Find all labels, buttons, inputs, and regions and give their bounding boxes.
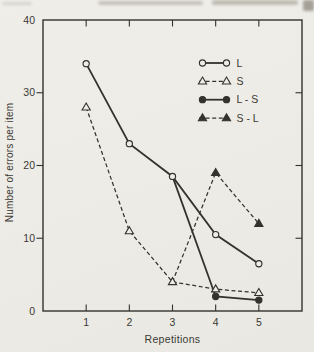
series-marker-filled-circle: [213, 293, 219, 299]
series-marker-open-triangle: [82, 103, 90, 110]
series-marker-open-circle: [223, 60, 229, 66]
series-markers-l: [83, 61, 262, 267]
series-marker-filled-triangle: [212, 168, 220, 175]
series-marker-filled-circle: [256, 297, 262, 303]
x-tick-label: 3: [170, 316, 176, 328]
series-marker-filled-circle: [199, 97, 205, 103]
x-tick-label: 1: [83, 316, 89, 328]
legend-entry-l: L: [199, 57, 243, 69]
x-tick-label: 4: [213, 316, 219, 328]
series-marker-filled-triangle: [198, 114, 206, 121]
y-tick-label: 40: [23, 14, 35, 26]
series-marker-open-triangle: [198, 77, 206, 84]
x-tick-label: 5: [256, 316, 262, 328]
legend-label: L: [237, 57, 243, 69]
y-axis-title: Number of errors per item: [4, 33, 15, 293]
legend-entry-s: S: [198, 75, 243, 87]
series-marker-open-circle: [256, 261, 262, 267]
series-line: [86, 64, 259, 264]
errors-vs-repetitions-chart: 12345010203040LSL - SS - L: [0, 0, 314, 352]
series-marker-open-triangle: [222, 77, 230, 84]
y-tick-label: 10: [23, 232, 35, 244]
series-marker-open-circle: [83, 61, 89, 67]
series-marker-open-circle: [126, 141, 132, 147]
legend-label: S - L: [237, 112, 259, 124]
series-marker-filled-circle: [223, 97, 229, 103]
legend-entry-s-l: S - L: [198, 112, 258, 124]
legend-label: S: [237, 75, 244, 87]
scanned-figure-page: 12345010203040LSL - SS - L Number of err…: [0, 0, 314, 352]
series-line: [86, 107, 259, 293]
series-s: [86, 107, 259, 293]
series-marker-open-circle: [199, 60, 205, 66]
series-l: [86, 64, 259, 264]
series-marker-filled-triangle: [222, 114, 230, 121]
y-tick-label: 30: [23, 86, 35, 98]
series-marker-open-circle: [169, 173, 175, 179]
x-axis-title: Repetitions: [43, 333, 302, 345]
series-marker-open-triangle: [255, 289, 263, 296]
series-marker-open-circle: [213, 232, 219, 238]
series-s-l: [173, 173, 259, 282]
series-markers-s: [82, 103, 263, 296]
legend-label: L - S: [237, 93, 259, 105]
x-tick-label: 2: [126, 316, 132, 328]
y-tick-label: 0: [29, 305, 35, 317]
series-markers-s-l: [212, 168, 263, 226]
plot-frame: [43, 20, 302, 311]
series-line: [173, 173, 259, 282]
legend-entry-l-s: L - S: [199, 93, 258, 105]
series-marker-open-triangle: [125, 227, 133, 234]
legend: LSL - SS - L: [198, 57, 258, 124]
y-tick-label: 20: [23, 159, 35, 171]
